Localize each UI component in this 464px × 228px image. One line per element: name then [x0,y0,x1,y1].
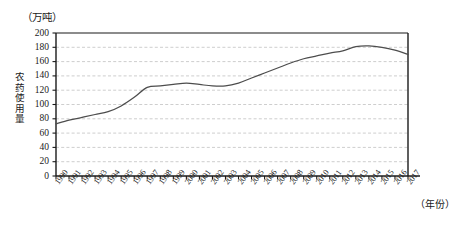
gridlines-group [56,47,408,161]
y-tick-label: 0 [23,171,49,181]
y-tick-label: 60 [23,128,49,138]
y-tick-label: 200 [23,28,49,38]
line-chart-plot [0,0,464,228]
y-tick-label: 140 [23,70,49,80]
y-tick-label: 160 [23,56,49,66]
y-tick-label: 40 [23,142,49,152]
y-tick-label: 180 [23,42,49,52]
y-tick-label: 120 [23,85,49,95]
chart-figure: （万吨） 农药使用量 （年份） 020406080100120140160180… [0,0,464,228]
y-tick-label: 20 [23,156,49,166]
pesticide-usage-line [56,46,408,124]
y-tick-label: 80 [23,113,49,123]
y-tick-label: 100 [23,99,49,109]
